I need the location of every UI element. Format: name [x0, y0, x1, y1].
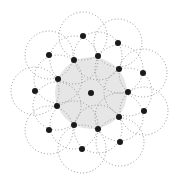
- dot: [46, 127, 52, 133]
- dot: [117, 139, 123, 145]
- dot: [116, 114, 122, 120]
- dot: [80, 33, 86, 39]
- disk-coverage-diagram: [0, 0, 177, 182]
- dot: [71, 57, 77, 63]
- dot: [46, 52, 52, 58]
- center-dot: [88, 90, 94, 96]
- dot: [71, 122, 77, 128]
- dot: [55, 76, 61, 82]
- dot: [141, 108, 147, 114]
- dot: [32, 88, 38, 94]
- dot: [79, 146, 85, 152]
- diagram-canvas: [0, 0, 177, 182]
- dot: [54, 103, 60, 109]
- dot: [116, 66, 122, 72]
- dot: [140, 70, 146, 76]
- dot: [95, 126, 101, 132]
- dot: [115, 40, 121, 46]
- dot: [125, 89, 131, 95]
- dot: [95, 53, 101, 59]
